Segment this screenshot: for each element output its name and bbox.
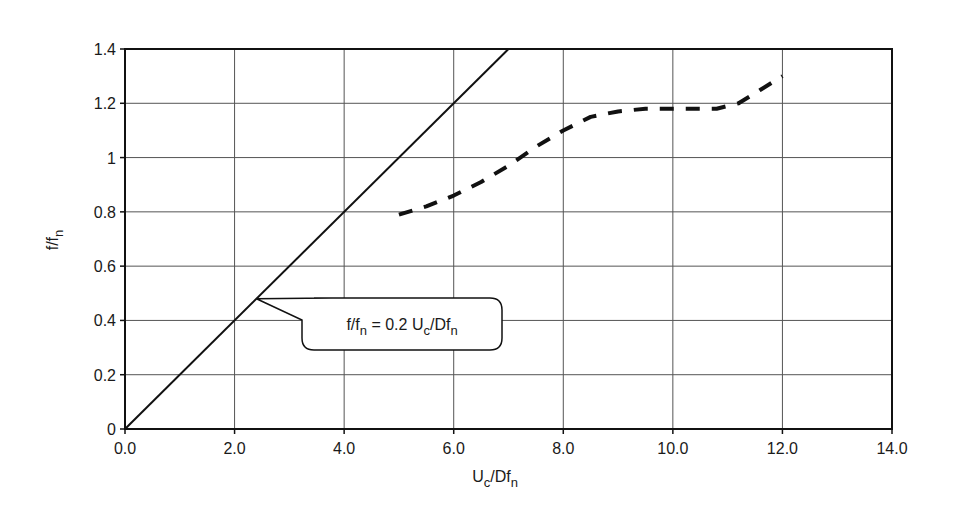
y-tick-label: 0.2: [94, 367, 116, 384]
x-axis-ticks: 0.02.04.06.08.010.012.014.0: [114, 429, 908, 457]
x-tick-label: 2.0: [223, 440, 245, 457]
y-tick-label: 1.4: [94, 41, 116, 58]
x-tick-label: 14.0: [876, 440, 907, 457]
solid-reference-line: [125, 49, 509, 429]
plot-frame: [125, 49, 892, 429]
y-tick-label: 0.6: [94, 258, 116, 275]
equation-callout: f/fn = 0.2 Uc/Dfn: [256, 298, 502, 350]
y-tick-label: 1.2: [94, 95, 116, 112]
x-tick-label: 6.0: [443, 440, 465, 457]
chart: 0.02.04.06.08.010.012.014.0 00.20.40.60.…: [0, 0, 953, 527]
x-tick-label: 10.0: [657, 440, 688, 457]
x-tick-label: 12.0: [767, 440, 798, 457]
y-tick-label: 0.4: [94, 312, 116, 329]
y-tick-label: 0.8: [94, 204, 116, 221]
y-axis-label: f/fn: [44, 230, 66, 251]
dashed-response-line: [399, 76, 783, 214]
y-tick-label: 0: [107, 421, 116, 438]
x-tick-label: 4.0: [333, 440, 355, 457]
y-tick-label: 1: [107, 150, 116, 167]
x-tick-label: 0.0: [114, 440, 136, 457]
x-axis-label: Uc/Dfn: [472, 468, 518, 490]
x-tick-label: 8.0: [552, 440, 574, 457]
grid-lines: [125, 49, 892, 429]
y-axis-ticks: 00.20.40.60.811.21.4: [94, 41, 125, 438]
